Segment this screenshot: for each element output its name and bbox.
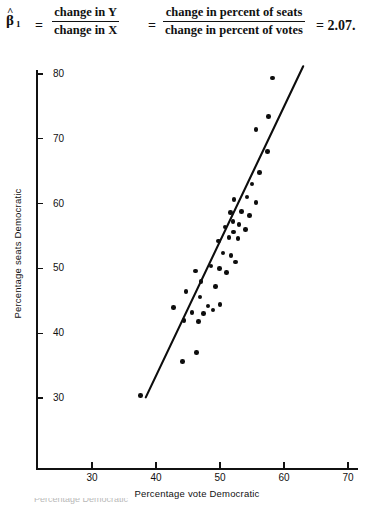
data-point — [257, 170, 262, 175]
data-point — [243, 227, 248, 232]
data-point — [180, 359, 185, 364]
scatter-plot: 304050607080 3040506070 Percentage vote … — [0, 58, 371, 506]
data-point — [265, 149, 270, 154]
data-point — [171, 305, 176, 310]
data-point — [229, 253, 234, 258]
data-point — [201, 311, 206, 316]
data-point — [254, 200, 259, 205]
data-point — [231, 219, 236, 224]
fraction-1-numerator: change in Y — [52, 5, 119, 22]
fraction-2-denominator: change in percent of votes — [163, 22, 305, 38]
equals-sign-1: = — [35, 18, 43, 34]
data-point — [231, 230, 236, 235]
data-point — [224, 270, 229, 275]
data-point — [194, 350, 199, 355]
equals-sign-2: = — [148, 18, 156, 34]
figure-caption-text: Percentage Democratic — [34, 498, 128, 504]
data-point — [236, 236, 241, 241]
data-point — [199, 279, 204, 284]
regression-formula: ^ β1 = change in Y change in X = change … — [0, 0, 371, 58]
fraction-seats-over-votes: change in percent of seats change in per… — [163, 5, 305, 39]
y-axis-label: Percentage seats Democratic — [12, 149, 23, 359]
fraction-change-y-over-x: change in Y change in X — [52, 5, 119, 39]
data-point — [228, 210, 233, 215]
data-point — [217, 266, 222, 271]
data-point — [227, 235, 232, 240]
fraction-1-denominator: change in X — [52, 22, 119, 38]
data-point — [196, 319, 201, 324]
data-point — [270, 76, 275, 81]
fraction-2-numerator: change in percent of seats — [163, 5, 305, 22]
data-point — [190, 310, 195, 315]
data-point — [247, 213, 252, 218]
data-point — [266, 114, 271, 119]
data-point — [182, 318, 187, 323]
data-point — [213, 284, 218, 289]
figure-caption-cropped: Percentage Democratic — [0, 498, 371, 506]
formula-result: = 2.07. — [316, 18, 355, 34]
data-point — [254, 127, 259, 132]
hat-accent: ^ — [7, 5, 13, 17]
beta-hat-symbol: ^ β1 — [6, 12, 20, 29]
data-point — [233, 260, 238, 265]
data-point — [239, 209, 244, 214]
regression-trendline — [0, 58, 371, 506]
beta-subscript: 1 — [16, 19, 21, 29]
data-point — [138, 393, 143, 398]
